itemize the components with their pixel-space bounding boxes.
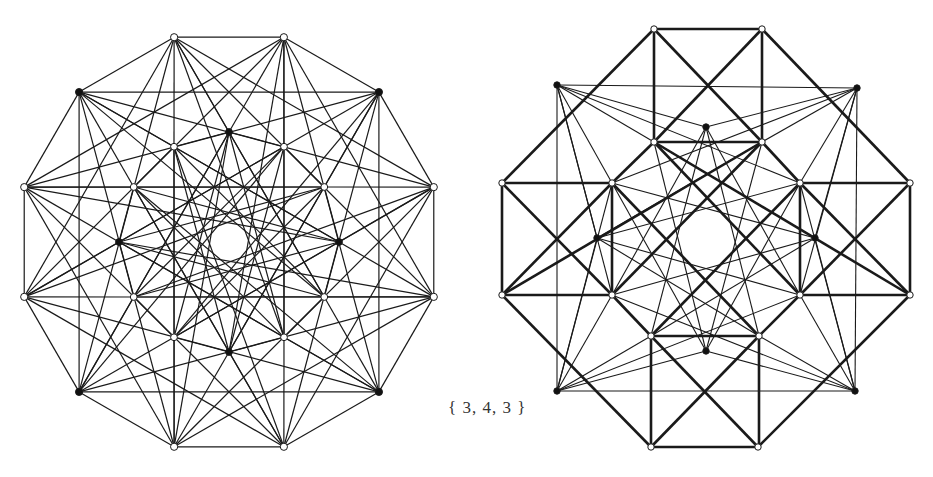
black-vertex xyxy=(375,88,382,95)
thick-edge xyxy=(762,142,800,183)
edge xyxy=(284,92,379,147)
white-vertex xyxy=(609,292,615,298)
white-vertex xyxy=(430,293,437,300)
black-vertex xyxy=(116,239,123,246)
thick-edge xyxy=(612,295,651,336)
edge xyxy=(79,92,434,187)
white-vertex xyxy=(171,334,178,341)
edge xyxy=(79,92,134,187)
edge xyxy=(79,92,324,297)
black-vertex xyxy=(336,239,343,246)
white-vertex xyxy=(907,292,913,298)
white-vertex xyxy=(21,293,28,300)
black-vertex xyxy=(375,388,382,395)
schlafli-symbol-caption: { 3, 4, 3 } xyxy=(448,398,526,418)
edge xyxy=(379,297,434,392)
white-vertex xyxy=(499,292,505,298)
thin-edge xyxy=(815,88,857,238)
white-vertex xyxy=(321,294,328,301)
right-24-cell-projection xyxy=(499,26,913,450)
thin-edge xyxy=(706,183,800,351)
thin-edge xyxy=(762,88,857,142)
edge xyxy=(79,337,174,392)
white-vertex xyxy=(648,444,654,450)
white-vertex xyxy=(797,292,803,298)
thin-edge xyxy=(557,336,651,391)
black-vertex xyxy=(554,388,560,394)
thick-edge xyxy=(759,295,800,336)
edge xyxy=(79,37,174,92)
white-vertex xyxy=(321,184,328,191)
white-vertex xyxy=(280,34,287,41)
white-vertex xyxy=(907,180,913,186)
white-vertex xyxy=(648,333,654,339)
edge xyxy=(79,147,284,392)
thick-edge xyxy=(762,29,910,183)
white-vertex xyxy=(281,334,288,341)
white-vertex xyxy=(609,180,615,186)
black-vertex xyxy=(703,348,709,354)
white-vertex xyxy=(430,184,437,191)
edge xyxy=(284,392,379,447)
edge xyxy=(24,92,79,187)
white-vertex xyxy=(171,443,178,450)
edge xyxy=(324,297,379,392)
thick-edge xyxy=(612,142,654,183)
white-vertex xyxy=(759,26,765,32)
white-vertex xyxy=(130,294,137,301)
edge xyxy=(174,37,324,297)
edge xyxy=(284,37,379,92)
black-vertex xyxy=(226,129,233,136)
black-vertex xyxy=(812,235,818,241)
black-vertex xyxy=(75,88,82,95)
black-vertex xyxy=(854,85,860,91)
white-vertex xyxy=(499,180,505,186)
black-vertex xyxy=(852,388,858,394)
edge xyxy=(174,37,434,187)
white-vertex xyxy=(21,184,28,191)
edge xyxy=(79,392,174,447)
white-vertex xyxy=(651,26,657,32)
white-vertex xyxy=(171,34,178,41)
black-vertex xyxy=(703,124,709,130)
black-vertex xyxy=(75,388,82,395)
white-vertex xyxy=(755,444,761,450)
edge xyxy=(379,92,434,187)
thin-edge xyxy=(612,127,706,295)
left-24-cell-projection xyxy=(21,34,438,451)
white-vertex xyxy=(651,139,657,145)
black-vertex xyxy=(594,235,600,241)
white-vertex xyxy=(759,139,765,145)
thin-edge xyxy=(557,295,612,391)
white-vertex xyxy=(756,333,762,339)
white-vertex xyxy=(130,184,137,191)
black-vertex xyxy=(554,82,560,88)
edge xyxy=(24,297,79,392)
black-vertex xyxy=(226,349,233,356)
white-vertex xyxy=(281,143,288,150)
edge xyxy=(134,187,379,392)
white-vertex xyxy=(280,443,287,450)
white-vertex xyxy=(171,143,178,150)
thin-edge xyxy=(800,88,857,183)
white-vertex xyxy=(797,180,803,186)
